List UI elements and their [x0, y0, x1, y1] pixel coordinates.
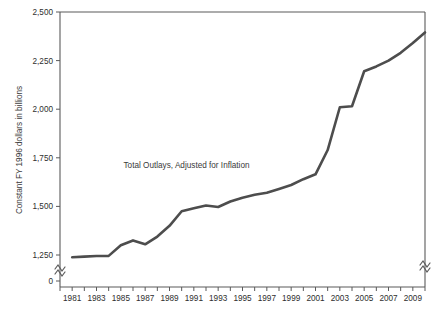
x-tick-label: 1999 [282, 294, 301, 303]
x-tick-label: 1993 [209, 294, 228, 303]
x-tick-label: 2001 [306, 294, 325, 303]
chart-figure: 01,2501,5001,7502,0002,2502,500 19811983… [0, 0, 443, 315]
y-tick-label: 2,250 [33, 57, 54, 66]
x-tick-label: 1981 [63, 294, 82, 303]
x-tick-label: 2007 [379, 294, 398, 303]
x-tick-label: 1985 [112, 294, 131, 303]
plot-frame [60, 12, 425, 287]
y-tick-label: 0 [48, 277, 53, 286]
y-axis-tick-labels: 01,2501,5001,7502,0002,2502,500 [33, 8, 54, 286]
y-tick-label: 2,500 [33, 8, 54, 17]
y-tick-label: 1,250 [33, 251, 54, 260]
y-tick-label: 1,500 [33, 202, 54, 211]
x-tick-label: 1983 [87, 294, 106, 303]
x-tick-label: 1997 [258, 294, 277, 303]
y-axis-ticks [56, 12, 60, 281]
x-tick-label: 2005 [355, 294, 374, 303]
x-tick-label: 1987 [136, 294, 155, 303]
data-series-line [72, 32, 425, 257]
y-tick-label: 1,750 [33, 154, 54, 163]
x-axis-ticks [60, 287, 425, 291]
y-tick-label: 2,000 [33, 105, 54, 114]
x-tick-label: 1991 [185, 294, 204, 303]
y-axis-label: Constant FY 1996 dollars in billions [15, 86, 24, 214]
x-tick-label: 2009 [404, 294, 423, 303]
x-axis-tick-labels: 1981198319851987198919911993199519971999… [63, 294, 422, 303]
x-tick-label: 2003 [331, 294, 350, 303]
series-annotation-label: Total Outlays, Adjusted for Inflation [123, 161, 250, 170]
x-tick-label: 1995 [233, 294, 252, 303]
x-tick-label: 1989 [160, 294, 179, 303]
